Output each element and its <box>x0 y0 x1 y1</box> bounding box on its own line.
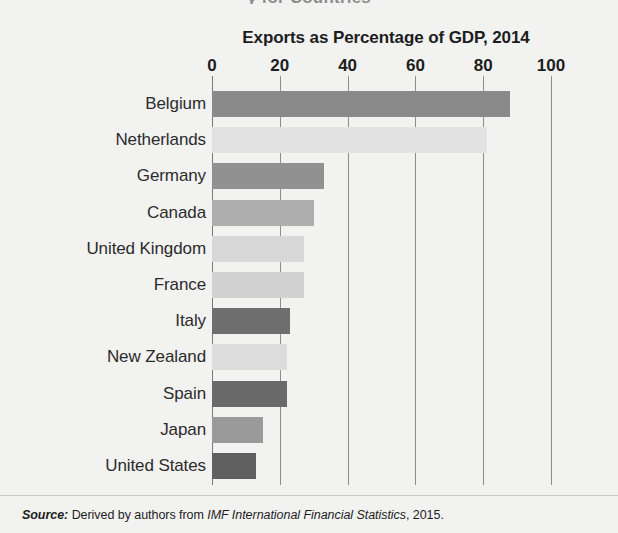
bar-united-states <box>212 453 256 479</box>
category-label-japan: Japan <box>160 420 206 440</box>
tick-label-20: 20 <box>270 56 289 76</box>
tick-label-0: 0 <box>207 56 216 76</box>
bar-belgium <box>212 91 510 117</box>
source-note: Source: Derived by authors from IMF Inte… <box>22 508 618 522</box>
bar-rows: BelgiumNetherlandsGermanyCanadaUnited Ki… <box>0 86 618 485</box>
tick-label-100: 100 <box>537 56 565 76</box>
source-text-after: , 2015. <box>406 508 444 522</box>
category-label-germany: Germany <box>137 166 206 186</box>
category-label-france: France <box>154 275 206 295</box>
category-label-netherlands: Netherlands <box>115 130 206 150</box>
bar-netherlands <box>212 127 487 153</box>
chart-title: Exports as Percentage of GDP, 2014 <box>196 28 576 48</box>
tick-label-40: 40 <box>338 56 357 76</box>
bar-row: United States <box>0 448 618 484</box>
category-label-new-zealand: New Zealand <box>107 347 206 367</box>
bar-row: Canada <box>0 195 618 231</box>
bar-united-kingdom <box>212 236 304 262</box>
bar-row: Japan <box>0 412 618 448</box>
category-label-belgium: Belgium <box>145 94 206 114</box>
bar-row: Germany <box>0 158 618 194</box>
x-axis-tick-labels: 020406080100 <box>212 56 551 82</box>
bar-row: Italy <box>0 303 618 339</box>
bar-germany <box>212 163 324 189</box>
bar-row: France <box>0 267 618 303</box>
tick-label-60: 60 <box>406 56 425 76</box>
clipped-caption-text: y for Countries <box>0 0 618 4</box>
bar-row: Spain <box>0 376 618 412</box>
category-label-italy: Italy <box>175 311 206 331</box>
category-label-spain: Spain <box>163 384 206 404</box>
tick-label-80: 80 <box>474 56 493 76</box>
bottom-divider <box>0 495 618 496</box>
bar-spain <box>212 381 287 407</box>
bar-japan <box>212 417 263 443</box>
bar-italy <box>212 308 290 334</box>
bar-canada <box>212 200 314 226</box>
bar-row: United Kingdom <box>0 231 618 267</box>
bar-row: New Zealand <box>0 339 618 375</box>
source-label: Source: <box>22 508 68 522</box>
bar-row: Belgium <box>0 86 618 122</box>
category-label-united-kingdom: United Kingdom <box>86 239 206 259</box>
bar-new-zealand <box>212 344 287 370</box>
category-label-canada: Canada <box>147 203 206 223</box>
source-text-before: Derived by authors from <box>68 508 207 522</box>
bar-row: Netherlands <box>0 122 618 158</box>
bar-france <box>212 272 304 298</box>
category-label-united-states: United States <box>105 456 206 476</box>
source-publication: IMF International Financial Statistics <box>207 508 406 522</box>
